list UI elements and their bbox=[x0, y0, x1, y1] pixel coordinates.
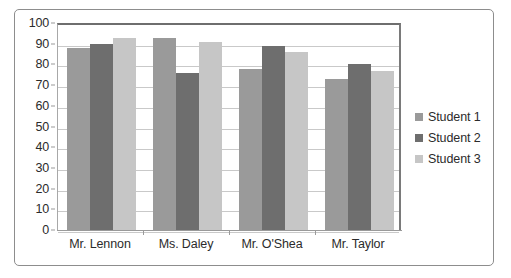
y-axis-tick-label: 20 bbox=[35, 182, 49, 196]
y-axis-tick bbox=[51, 85, 55, 86]
chart-legend: Student 1Student 2Student 3 bbox=[415, 106, 491, 169]
chart-container: 0102030405060708090100 Mr. LennonMs. Dal… bbox=[14, 9, 494, 266]
bar[interactable] bbox=[153, 38, 176, 231]
x-axis-tick-label: Ms. Daley bbox=[159, 237, 214, 251]
y-axis-tick bbox=[51, 126, 55, 127]
y-axis-tick-label: 0 bbox=[42, 223, 49, 237]
legend-item-label: Student 3 bbox=[428, 152, 481, 166]
y-axis-tick bbox=[51, 167, 55, 168]
y-axis-tick-label: 100 bbox=[29, 16, 49, 30]
y-axis-tick-label: 50 bbox=[35, 120, 49, 134]
legend-swatch-icon bbox=[415, 155, 423, 163]
bar[interactable] bbox=[199, 42, 222, 230]
bars-layer bbox=[58, 25, 399, 230]
plot-area bbox=[57, 23, 401, 230]
y-axis-tick-label: 60 bbox=[35, 99, 49, 113]
y-axis-tick bbox=[51, 188, 55, 189]
bar-group bbox=[230, 25, 316, 230]
y-axis-tick bbox=[51, 23, 55, 24]
legend-swatch-icon bbox=[415, 134, 423, 142]
bar-group bbox=[316, 25, 402, 230]
x-axis-tick bbox=[315, 230, 316, 235]
y-axis-tick-label: 80 bbox=[35, 57, 49, 71]
legend-item[interactable]: Student 2 bbox=[415, 127, 491, 148]
bar[interactable] bbox=[348, 64, 371, 230]
y-axis-tick bbox=[51, 105, 55, 106]
bar[interactable] bbox=[113, 38, 136, 231]
y-axis-tick-label: 90 bbox=[35, 37, 49, 51]
x-axis-tick bbox=[143, 230, 144, 235]
bar[interactable] bbox=[176, 73, 199, 230]
legend-swatch-icon bbox=[415, 113, 423, 121]
y-axis-tick-label: 10 bbox=[35, 202, 49, 216]
bar[interactable] bbox=[371, 71, 394, 230]
y-axis-tick-label: 30 bbox=[35, 161, 49, 175]
bar[interactable] bbox=[67, 48, 90, 230]
y-axis-tick-label: 40 bbox=[35, 140, 49, 154]
y-axis-tick bbox=[51, 209, 55, 210]
bar[interactable] bbox=[90, 44, 113, 230]
y-axis-tick bbox=[51, 230, 55, 231]
x-axis-tick-label: Mr. O'Shea bbox=[241, 237, 302, 251]
bar[interactable] bbox=[325, 79, 348, 230]
legend-item[interactable]: Student 3 bbox=[415, 148, 491, 169]
x-axis-tick-label: Mr. Taylor bbox=[332, 237, 385, 251]
y-axis-tick bbox=[51, 43, 55, 44]
x-axis-tick bbox=[229, 230, 230, 235]
bar[interactable] bbox=[285, 52, 308, 230]
bar[interactable] bbox=[239, 69, 262, 230]
legend-item[interactable]: Student 1 bbox=[415, 106, 491, 127]
bar-group bbox=[144, 25, 230, 230]
y-axis-tick-label: 70 bbox=[35, 78, 49, 92]
y-axis: 0102030405060708090100 bbox=[15, 10, 55, 243]
y-axis-tick bbox=[51, 147, 55, 148]
bar-group bbox=[58, 25, 144, 230]
x-axis-tick-label: Mr. Lennon bbox=[69, 237, 131, 251]
legend-item-label: Student 1 bbox=[428, 110, 481, 124]
legend-item-label: Student 2 bbox=[428, 131, 481, 145]
bar[interactable] bbox=[262, 46, 285, 230]
y-axis-tick bbox=[51, 64, 55, 65]
